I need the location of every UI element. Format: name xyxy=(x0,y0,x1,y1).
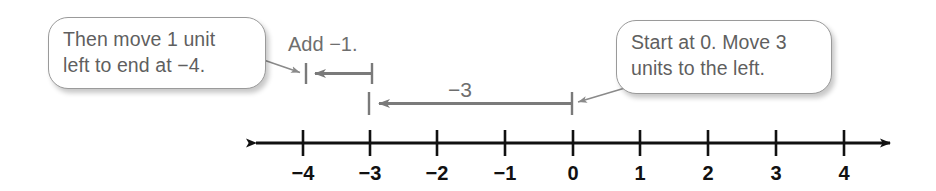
leader-line-right xyxy=(578,88,625,102)
callout-start-at-0-move-3-units-left: Start at 0. Move 3 units to the left. xyxy=(616,20,832,94)
tick-label-1: 1 xyxy=(634,163,645,183)
number-line-diagram: −4 −3 −2 −1 0 1 2 3 4 Add −1. −3 Then mo… xyxy=(0,0,936,191)
tick-label-3: 3 xyxy=(770,163,781,183)
jump-label-neg-3: −3 xyxy=(448,79,472,101)
callout-then-move-1-unit-left: Then move 1 unit left to end at −4. xyxy=(48,17,266,89)
tick-label-4: 4 xyxy=(838,163,849,183)
tick-label-2: 2 xyxy=(702,163,713,183)
tick-label-0: 0 xyxy=(567,163,578,183)
jump-arrow-add-neg-1 xyxy=(306,63,372,84)
jump-label-add-neg-1: Add −1. xyxy=(288,33,358,55)
tick-label-neg-1: −1 xyxy=(494,163,517,183)
tick-label-neg-3: −3 xyxy=(359,163,382,183)
tick-label-neg-4: −4 xyxy=(292,163,315,183)
tick-label-neg-2: −2 xyxy=(426,163,449,183)
